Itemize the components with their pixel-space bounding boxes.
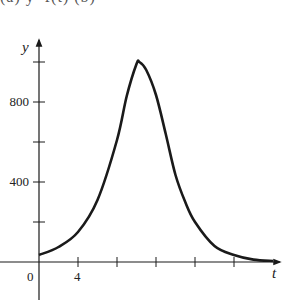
x-axis-label: t bbox=[272, 265, 277, 281]
line-chart: 04 400800 y t bbox=[0, 0, 287, 303]
y-ticks: 400800 bbox=[10, 62, 46, 222]
y-axis-label: y bbox=[20, 39, 29, 55]
y-tick-label: 800 bbox=[10, 94, 30, 109]
x-tick-label: 0 bbox=[27, 269, 34, 284]
y-tick-label: 400 bbox=[10, 174, 30, 189]
x-tick-label: 4 bbox=[74, 269, 81, 284]
x-ticks: 04 bbox=[27, 257, 234, 284]
data-curve bbox=[39, 60, 273, 261]
